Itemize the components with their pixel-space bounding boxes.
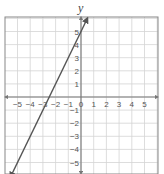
svg-text:4: 4 bbox=[130, 100, 135, 109]
svg-text:−3: −3 bbox=[70, 132, 80, 141]
svg-text:0: 0 bbox=[79, 100, 84, 109]
svg-text:−1: −1 bbox=[70, 106, 80, 115]
svg-text:−5: −5 bbox=[70, 159, 80, 168]
svg-text:−5: −5 bbox=[13, 100, 23, 109]
svg-text:3: 3 bbox=[75, 54, 80, 63]
svg-text:1: 1 bbox=[91, 100, 96, 109]
svg-text:−4: −4 bbox=[26, 100, 36, 109]
svg-text:2: 2 bbox=[75, 67, 80, 76]
svg-text:−4: −4 bbox=[70, 145, 80, 154]
svg-text:−2: −2 bbox=[51, 100, 61, 109]
y-axis-label: y bbox=[77, 1, 84, 15]
svg-text:3: 3 bbox=[117, 100, 122, 109]
coordinate-plane: −5−4−3−2−101234554321−1−2−3−4−5 y bbox=[0, 0, 164, 174]
svg-text:2: 2 bbox=[104, 100, 109, 109]
svg-text:−2: −2 bbox=[70, 119, 80, 128]
svg-text:5: 5 bbox=[142, 100, 147, 109]
svg-text:1: 1 bbox=[75, 80, 80, 89]
